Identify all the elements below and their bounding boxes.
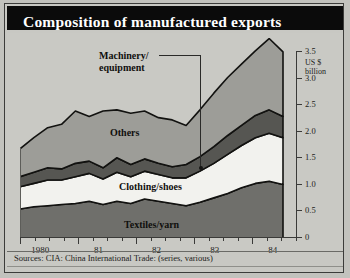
series-label-textiles: Textiles/yarn xyxy=(124,219,179,231)
leader-line-vertical xyxy=(200,55,201,168)
x-tick-minor xyxy=(223,238,224,241)
series-label-others: Others xyxy=(110,127,139,139)
leader-line-horizontal xyxy=(159,55,201,56)
x-tick-minor xyxy=(238,238,239,241)
y-tick xyxy=(297,157,302,158)
x-tick-major xyxy=(136,238,137,244)
x-tick-minor xyxy=(296,238,297,241)
y-tick-label: 3.5 xyxy=(305,46,316,56)
series-label-machinery: Machinery/ equipment xyxy=(99,50,148,73)
y-tick-label: 0.5 xyxy=(305,205,316,215)
y-tick xyxy=(297,131,302,132)
y-axis-unit-label: US $ billion xyxy=(305,59,345,76)
chart-panel: 3.53.02.52.01.51.00.50 US $ billion 1980… xyxy=(7,33,343,251)
y-tick-label: 1.5 xyxy=(305,152,316,162)
y-tick xyxy=(297,51,302,52)
page-title: Composition of manufactured exports xyxy=(23,13,343,31)
y-tick xyxy=(297,104,302,105)
y-tick xyxy=(297,210,302,211)
x-tick-minor xyxy=(165,238,166,241)
left-axis-stub xyxy=(20,148,21,238)
y-tick xyxy=(297,78,302,79)
y-tick xyxy=(297,184,302,185)
x-tick-label: 84 xyxy=(253,245,293,255)
x-tick-minor xyxy=(209,238,210,241)
x-tick-minor xyxy=(64,238,65,241)
x-tick-minor xyxy=(151,238,152,241)
bottom-divider xyxy=(7,266,343,267)
series-label-machinery-line1: Machinery/ xyxy=(99,50,148,61)
figure-root: Composition of manufactured exports 3.53… xyxy=(0,0,350,278)
x-axis-line xyxy=(20,237,297,238)
x-tick-major xyxy=(20,238,21,244)
y-tick-label: 1.0 xyxy=(305,179,316,189)
y-tick-label: 0 xyxy=(305,232,309,242)
unit-line-2: billion xyxy=(305,68,345,77)
x-tick-minor xyxy=(180,238,181,241)
stacked-area-svg xyxy=(20,38,296,238)
y-tick-label: 2.0 xyxy=(305,126,316,136)
area-series-group xyxy=(20,39,283,238)
source-note: Sources: CIA: China International Trade:… xyxy=(14,253,213,263)
source-divider xyxy=(7,251,343,252)
x-tick-minor xyxy=(93,238,94,241)
x-tick-minor xyxy=(49,238,50,241)
x-tick-minor xyxy=(107,238,108,241)
leader-line-dot xyxy=(199,166,203,170)
series-label-clothing: Clothing/shoes xyxy=(119,181,182,193)
title-bar: Composition of manufactured exports xyxy=(7,6,343,30)
x-tick-major xyxy=(194,238,195,244)
series-label-machinery-line2: equipment xyxy=(99,62,145,73)
x-tick-major xyxy=(78,238,79,244)
x-tick-minor xyxy=(281,238,282,241)
x-tick-minor xyxy=(267,238,268,241)
x-tick-minor xyxy=(122,238,123,241)
x-tick-minor xyxy=(35,238,36,241)
plot-area xyxy=(20,38,296,238)
x-tick-major xyxy=(252,238,253,244)
y-tick-label: 2.5 xyxy=(305,99,316,109)
y-tick xyxy=(297,237,302,238)
